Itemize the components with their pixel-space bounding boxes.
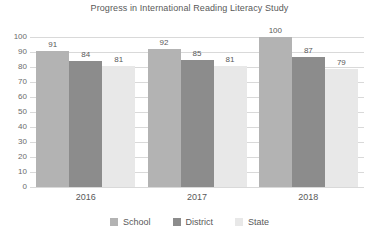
- bar[interactable]: 81: [102, 66, 135, 188]
- bar[interactable]: 84: [69, 61, 102, 187]
- y-tick-label: 30: [0, 138, 27, 146]
- bar-value-label: 100: [269, 26, 282, 35]
- bar-value-label: 87: [304, 46, 313, 55]
- legend-label: District: [186, 217, 214, 227]
- legend-swatch-icon: [235, 218, 243, 226]
- legend-item[interactable]: School: [110, 217, 151, 227]
- bar[interactable]: 81: [214, 66, 247, 188]
- bar-value-label: 91: [48, 40, 57, 49]
- bar[interactable]: 100: [259, 37, 292, 187]
- y-tick-label: 20: [0, 153, 27, 161]
- y-tick-label: 100: [0, 33, 27, 41]
- bar-value-label: 81: [114, 55, 123, 64]
- legend-swatch-icon: [110, 218, 118, 226]
- bar[interactable]: 92: [148, 49, 181, 187]
- x-axis: 201620172018: [30, 191, 364, 205]
- bar-value-label: 92: [160, 38, 169, 47]
- y-axis: 1009080706050403020100: [0, 37, 27, 188]
- y-tick-label: 0: [0, 183, 27, 191]
- legend-label: State: [248, 217, 269, 227]
- x-tick-label: 2017: [148, 191, 247, 203]
- x-tick-label: 2018: [259, 191, 358, 203]
- chart-title: Progress in International Reading Litera…: [0, 2, 379, 14]
- legend-item[interactable]: State: [235, 217, 269, 227]
- bar-group: 1008779: [259, 37, 358, 187]
- y-tick-label: 90: [0, 48, 27, 56]
- bar-value-label: 84: [81, 50, 90, 59]
- bar-group: 918481: [36, 37, 135, 187]
- bar[interactable]: 87: [292, 57, 325, 188]
- y-tick-label: 60: [0, 93, 27, 101]
- bar-group: 928581: [148, 37, 247, 187]
- y-tick-label: 80: [0, 63, 27, 71]
- legend-item[interactable]: District: [173, 217, 214, 227]
- bar-value-label: 85: [193, 49, 202, 58]
- y-tick-label: 70: [0, 78, 27, 86]
- chart-legend: SchoolDistrictState: [0, 217, 379, 227]
- y-tick-label: 40: [0, 123, 27, 131]
- y-tick-label: 10: [0, 168, 27, 176]
- bar[interactable]: 91: [36, 51, 69, 188]
- x-tick-label: 2016: [36, 191, 135, 203]
- legend-label: School: [123, 217, 151, 227]
- bar[interactable]: 85: [181, 60, 214, 188]
- bar-value-label: 79: [337, 58, 346, 67]
- bars-layer: 9184819285811008779: [30, 37, 364, 188]
- bar-chart: Progress in International Reading Litera…: [0, 0, 379, 238]
- legend-swatch-icon: [173, 218, 181, 226]
- y-tick-label: 50: [0, 108, 27, 116]
- bar[interactable]: 79: [325, 69, 358, 188]
- bar-value-label: 81: [226, 55, 235, 64]
